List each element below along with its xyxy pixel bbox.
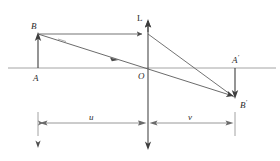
lens-axis-label: L bbox=[137, 14, 143, 23]
object-base-label: A bbox=[33, 74, 39, 83]
image-distance-label: v bbox=[188, 113, 192, 122]
image-base-prime: ′ bbox=[238, 53, 240, 61]
optical-centre-label: O bbox=[138, 72, 145, 81]
object-top-label: B bbox=[31, 22, 37, 31]
object-distance-label: u bbox=[89, 113, 94, 122]
optics-ray-diagram: L B A O A′ B′ u v bbox=[0, 0, 280, 161]
image-top-label: B′ bbox=[240, 99, 247, 110]
object-extension-down-arrow bbox=[35, 141, 40, 148]
ray-refracted-to-image bbox=[148, 34, 234, 97]
ray-through-optical-centre bbox=[38, 34, 233, 96]
image-top-prime: ′ bbox=[246, 98, 248, 106]
image-base-label: A′ bbox=[232, 54, 239, 65]
